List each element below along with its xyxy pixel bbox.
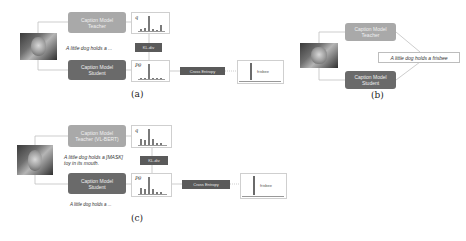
distribution-bar <box>148 16 150 31</box>
kl-div-box: KL-div <box>135 43 162 52</box>
teacher-masked-caption: A little dog holds a [MASK] toy in its m… <box>64 154 123 166</box>
dog-image <box>17 145 53 175</box>
distribution-bar <box>148 64 150 79</box>
target-word: frisbee <box>260 183 272 188</box>
student-model-box: Caption ModelStudent <box>68 173 126 194</box>
teacher-label-line2: Teacher <box>354 32 386 38</box>
arrow-image-to-teacher-b <box>319 32 345 43</box>
p-theta-label: Pθ <box>135 175 141 181</box>
student-model-box: Caption ModelStudent <box>68 60 126 80</box>
q-label: q <box>135 14 138 20</box>
student-caption-prefix: A little dog holds a ... <box>66 45 112 51</box>
teacher-label-line2: Teacher (VL-BERT) <box>75 136 119 142</box>
teacher-distribution-plot: q <box>131 12 170 34</box>
student-label-line1: Caption Model <box>81 178 113 184</box>
target-axis <box>239 81 281 82</box>
target-spike <box>250 63 252 80</box>
distribution-bar <box>148 129 150 145</box>
arrow-image-to-student-b <box>319 68 345 80</box>
distribution-bar <box>148 177 150 194</box>
target-word: frisbee <box>257 69 269 74</box>
student-caption-prefix: A little dog holds a ... <box>70 202 112 207</box>
target-onehot-plot: frisbee <box>240 173 287 199</box>
arrow-image-to-student-c <box>35 175 68 184</box>
q-label: q <box>135 127 138 133</box>
distribution-axis <box>138 194 167 195</box>
line-teacher-to-caption-b <box>396 32 420 52</box>
student-distribution-plot: Pθ <box>131 173 172 197</box>
cross-entropy-box: Cross Entropy <box>180 67 225 75</box>
teacher-distribution-plot: q <box>131 125 172 148</box>
student-distribution-plot: Pθ <box>131 60 170 82</box>
dog-image <box>20 33 57 60</box>
student-label-line2: Student <box>354 80 386 86</box>
subfigure-label-b: (b) <box>371 90 384 100</box>
distribution-axis <box>138 145 167 146</box>
teacher-model-box: Caption ModelTeacher <box>68 12 126 33</box>
target-spike <box>253 176 255 195</box>
student-model-box: Caption ModelStudent <box>345 71 396 89</box>
subfigure-label-c: (c) <box>131 213 143 223</box>
generated-caption: A little dog holds a frisbee <box>378 52 460 63</box>
teacher-model-box: Caption ModelTeacher (VL-BERT) <box>68 125 126 147</box>
student-label-line2: Student <box>81 70 113 76</box>
dog-image <box>300 43 338 68</box>
student-label-line2: Student <box>81 184 113 190</box>
cross-entropy-box: Cross Entropy <box>182 180 230 189</box>
p-theta-label: Pθ <box>135 62 141 68</box>
arrow-image-to-teacher-a <box>38 22 68 33</box>
subfigure-label-a: (a) <box>131 89 143 99</box>
target-axis <box>242 196 284 197</box>
line-student-to-caption-b <box>396 62 420 80</box>
target-onehot-plot: frisbee <box>237 60 284 84</box>
distribution-axis <box>138 31 165 32</box>
teacher-model-box: Caption ModelTeacher <box>345 23 396 41</box>
teacher-label-line1: Caption Model <box>81 17 113 23</box>
arrow-image-to-student-a <box>38 60 68 70</box>
kl-div-box: KL-div <box>140 156 168 165</box>
distribution-axis <box>138 79 165 80</box>
teacher-label-line2: Teacher <box>81 23 113 29</box>
arrow-image-to-teacher-c <box>35 136 68 145</box>
masked-caption-line2: toy in its mouth. <box>64 160 123 166</box>
